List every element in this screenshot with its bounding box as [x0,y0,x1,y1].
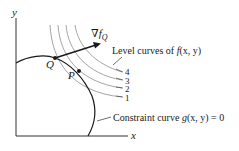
lagrange-diagram: y x ∇fQ Q P Level curves of f(x, y) 4 3 … [0,0,239,151]
constraint-caption: Constraint curve g(x, y) = 0 [113,112,224,124]
level-labels [116,69,123,97]
point-p [77,69,81,73]
gradient-arrowhead [93,42,101,49]
point-p-label: P [67,69,75,81]
constraint-curve [16,56,95,136]
level-curves-caption: Level curves of f(x, y) [112,45,201,57]
y-axis-label: y [11,6,17,18]
level-label-1: 1 [125,93,130,103]
level-caption-leader [113,57,122,65]
x-axis-label: x [130,129,136,141]
constraint-caption-leader [97,117,111,121]
gradient-arrow [55,45,96,58]
point-q-label: Q [46,58,54,70]
gradient-label: ∇fQ [91,27,108,42]
